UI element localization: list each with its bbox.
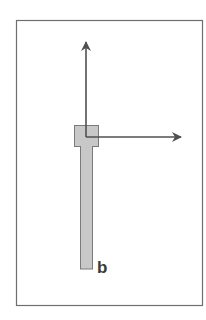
bar-stem xyxy=(81,146,93,269)
frame-border xyxy=(17,21,203,306)
diagram-canvas: b xyxy=(0,0,206,320)
bar-shape xyxy=(75,126,99,270)
bar-label: b xyxy=(97,258,107,277)
